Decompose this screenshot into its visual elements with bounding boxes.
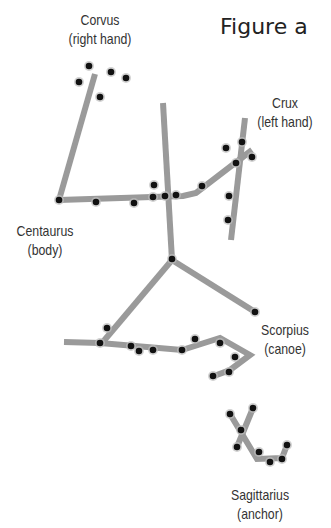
star-dot — [128, 343, 135, 350]
star-dot — [179, 347, 186, 354]
star-dot — [249, 154, 256, 161]
star-dot — [267, 459, 274, 466]
star-dot — [150, 347, 157, 354]
label-sagittarius: Sagittarius (anchor) — [215, 485, 305, 523]
star-dot — [192, 336, 199, 343]
constellation-line — [59, 150, 252, 200]
star-dot — [233, 160, 240, 167]
star-dot — [162, 193, 169, 200]
star-dot — [151, 182, 158, 189]
star-dot — [136, 348, 143, 355]
star-dot — [279, 456, 286, 463]
label-crux: Crux (left hand) — [240, 93, 330, 131]
star-dot — [238, 427, 245, 434]
star-dot — [97, 94, 104, 101]
constellation-line — [231, 118, 245, 240]
star-dot — [226, 193, 233, 200]
constellation-line — [59, 74, 95, 200]
star-dot — [227, 411, 234, 418]
star-dot — [93, 199, 100, 206]
figure-a-diagram: Figure a Corvus (right hand) Crux (left … — [0, 0, 331, 528]
star-dot — [210, 373, 217, 380]
star-dot — [97, 340, 104, 347]
star-dot — [217, 340, 224, 347]
star-dot — [123, 75, 130, 82]
star-dot — [173, 192, 180, 199]
star-dot — [250, 405, 257, 412]
constellation-line — [102, 260, 172, 343]
star-dot — [284, 442, 291, 449]
star-dot — [239, 139, 246, 146]
star-dot — [232, 354, 239, 361]
star-dot — [223, 145, 230, 152]
figure-title: Figure a — [220, 14, 308, 39]
label-corvus: Corvus (right hand) — [51, 10, 149, 48]
star-dot — [131, 200, 138, 207]
constellation-line — [172, 260, 255, 312]
star-dot — [256, 449, 263, 456]
constellation-diagram — [0, 0, 331, 528]
label-scorpius: Scorpius (canoe) — [252, 320, 318, 358]
star-dot — [56, 197, 63, 204]
star-dot — [76, 79, 83, 86]
star-dot — [104, 325, 111, 332]
star-dot — [252, 309, 259, 316]
star-dot — [226, 369, 233, 376]
star-dot — [234, 444, 241, 451]
star-dot — [150, 194, 157, 201]
star-dot — [199, 183, 206, 190]
star-dot — [108, 69, 115, 76]
star-dot — [86, 63, 93, 70]
star-dot — [225, 217, 232, 224]
label-centaurus: Centaurus (body) — [4, 221, 86, 259]
star-dot — [169, 256, 176, 263]
constellation-line — [163, 103, 172, 260]
